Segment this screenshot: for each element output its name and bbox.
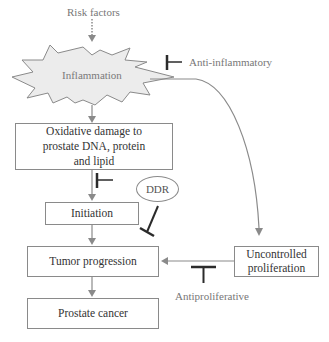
risk-factors-label: Risk factors xyxy=(67,7,120,18)
tumor-progression-box: Tumor progression xyxy=(27,246,159,277)
uncontrolled-proliferation-line-2: proliferation xyxy=(248,262,305,276)
ddr-node: DDR xyxy=(136,176,179,202)
initiation-box: Initiation xyxy=(45,202,139,225)
ddr-inhibitor-icon xyxy=(140,206,158,236)
oxidative-inhibitor-icon xyxy=(97,173,113,188)
anti-inflammatory-label: Anti-inflammatory xyxy=(189,57,272,68)
oxidative-damage-box: Oxidative damage to prostate DNA, protei… xyxy=(15,123,173,170)
tumor-progression-label: Tumor progression xyxy=(49,254,136,269)
arrow-oxidative-to-initiation xyxy=(88,170,96,201)
dotted-arrow-risk-to-inflammation xyxy=(88,19,96,42)
oxidative-damage-line-3: and lipid xyxy=(74,154,115,169)
anti-inflammatory-inhibitor-icon xyxy=(167,55,182,70)
uncontrolled-proliferation-box: Uncontrolled proliferation xyxy=(234,246,319,277)
arrow-initiation-to-tumor xyxy=(88,225,96,245)
antiproliferative-inhibitor-icon xyxy=(191,267,216,283)
arrow-proliferation-to-tumor xyxy=(161,257,234,265)
antiproliferative-label: Antiproliferative xyxy=(175,291,249,302)
arrow-tumor-to-cancer xyxy=(88,277,96,297)
initiation-label: Initiation xyxy=(71,206,113,221)
uncontrolled-proliferation-line-1: Uncontrolled xyxy=(246,248,307,262)
oxidative-damage-line-2: prostate DNA, protein xyxy=(43,139,146,154)
inflammation-label: Inflammation xyxy=(62,70,122,81)
diagram-canvas xyxy=(0,0,329,342)
ddr-label: DDR xyxy=(146,183,169,195)
prostate-cancer-label: Prostate cancer xyxy=(58,306,128,321)
arrow-inflammation-to-oxidative xyxy=(88,105,96,123)
prostate-cancer-box: Prostate cancer xyxy=(27,298,159,329)
oxidative-damage-line-1: Oxidative damage to xyxy=(46,124,142,139)
